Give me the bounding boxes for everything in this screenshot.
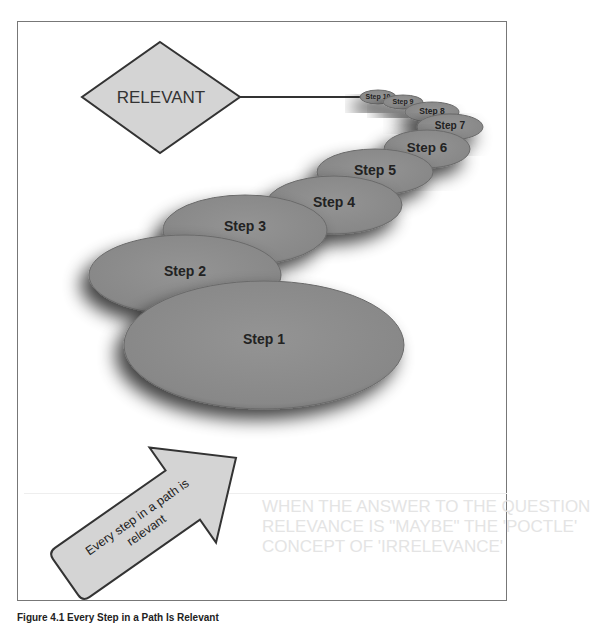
step-label: Step 5 bbox=[354, 162, 396, 178]
step-label: Step 6 bbox=[407, 140, 447, 155]
decision-diamond: RELEVANT bbox=[82, 42, 240, 153]
figure-caption: Figure 4.1 Every Step in a Path Is Relev… bbox=[17, 612, 219, 623]
step-label: Step 3 bbox=[224, 218, 266, 234]
step-label: Step 9 bbox=[392, 98, 413, 106]
step-1: Step 1 bbox=[124, 281, 404, 409]
step-label: Step 1 bbox=[243, 331, 285, 347]
annotation-arrow: Every step in a path is relevant bbox=[32, 410, 269, 624]
step-label: Step 2 bbox=[164, 263, 206, 279]
step-label: Step 7 bbox=[435, 120, 466, 131]
step-label: Step 4 bbox=[313, 194, 355, 210]
decision-label: RELEVANT bbox=[117, 88, 206, 107]
